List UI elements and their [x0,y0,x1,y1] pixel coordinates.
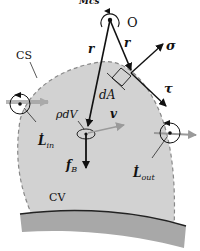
shear-stress-label: τ [164,81,173,96]
normal-stress-label: σ [166,38,176,53]
inflow-point [18,102,22,106]
control-surface-leader [30,62,37,78]
velocity-label: v [110,107,118,121]
position-vector-right-label: r [124,36,132,50]
origin-label: O [127,15,138,30]
outflow-point [168,131,172,135]
inflow-rotation-arrowhead-icon [14,92,21,98]
top-moment-label: Ṁcs [78,0,100,6]
control-volume-label: CV [49,191,66,204]
angular-momentum-control-volume-diagram: O Ṁcs r r σ τ dA ρdV v fB L̇in L̇out CS … [0,0,200,251]
normal-stress-vector [131,44,163,73]
position-vector-left-label: r [88,42,96,56]
mass-element-label: ρdV [55,108,79,121]
moment-rotation-arrowhead-icon [104,8,110,14]
control-surface-label: CS [16,49,32,62]
area-element-label: dA [99,88,116,102]
